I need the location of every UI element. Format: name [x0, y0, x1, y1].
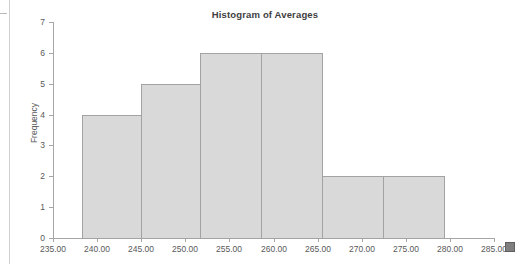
y-tick-label: 1 [28, 202, 45, 212]
x-tick-label: 235.00 [30, 244, 76, 255]
x-tick-label: 250.00 [162, 244, 208, 255]
x-tick [53, 238, 54, 242]
x-tick-label: 245.00 [118, 244, 164, 255]
chart-resize-handle[interactable] [505, 242, 515, 252]
y-tick-label: 6 [28, 48, 45, 58]
histogram-chart[interactable]: Histogram of Averages Frequency 01234567… [0, 0, 530, 264]
y-axis-title: Frequency [29, 83, 39, 163]
histogram-bar[interactable] [200, 53, 262, 239]
y-tick-label: 5 [28, 79, 45, 89]
y-axis-line [53, 22, 54, 239]
y-tick-label: 2 [28, 171, 45, 181]
y-tick-label: 7 [28, 17, 45, 27]
y-tick-label: 4 [28, 110, 45, 120]
y-tick [49, 84, 53, 85]
chart-title: Histogram of Averages [140, 9, 390, 20]
y-tick [49, 115, 53, 116]
y-tick [49, 22, 53, 23]
x-tick-label: 255.00 [206, 244, 252, 255]
histogram-bar[interactable] [82, 115, 142, 239]
y-tick [49, 53, 53, 54]
y-tick-label: 3 [28, 140, 45, 150]
x-tick-label: 240.00 [74, 244, 120, 255]
x-tick [494, 238, 495, 242]
x-tick-label: 265.00 [295, 244, 341, 255]
x-tick-label: 270.00 [339, 244, 385, 255]
histogram-bar[interactable] [383, 176, 445, 239]
y-tick [49, 176, 53, 177]
histogram-bar[interactable] [141, 84, 201, 239]
x-tick-label: 280.00 [427, 244, 473, 255]
y-tick-label: 0 [28, 233, 45, 243]
y-tick [49, 207, 53, 208]
x-tick-label: 260.00 [251, 244, 297, 255]
x-tick-label: 275.00 [383, 244, 429, 255]
histogram-bar[interactable] [261, 53, 323, 239]
histogram-bar[interactable] [322, 176, 384, 239]
x-tick [450, 238, 451, 242]
screenshot-root: Histogram of Averages Frequency 01234567… [0, 0, 530, 264]
y-tick [49, 145, 53, 146]
